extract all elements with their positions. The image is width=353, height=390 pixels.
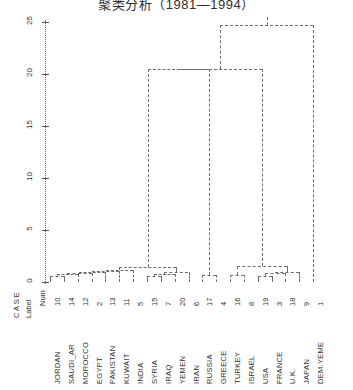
leaf-label-8: IRAQ bbox=[164, 364, 173, 384]
link-h-m18 bbox=[179, 69, 262, 70]
y-tick-label-5: 5 bbox=[25, 218, 34, 240]
leaf-num-10: 6 bbox=[192, 302, 201, 306]
leaf-num-13: 16 bbox=[233, 298, 242, 306]
leaf-label-block: C A S ELabelNum10JORDAN14SAUDI_AR12MOROC… bbox=[0, 284, 353, 390]
leaf-label-19: DEM.YEME bbox=[316, 342, 325, 384]
link-v-m17-left bbox=[148, 69, 149, 268]
leaf-num-9: 20 bbox=[178, 298, 187, 306]
y-tick-10 bbox=[42, 178, 49, 179]
link-v-m12-left bbox=[230, 275, 231, 282]
leaf-num-11: 17 bbox=[205, 298, 214, 306]
link-root-stem bbox=[267, 17, 268, 25]
leaf-label-10: IRAN bbox=[192, 365, 201, 384]
y-tick-label-15: 15 bbox=[25, 114, 34, 136]
link-v-m3-right bbox=[92, 273, 93, 282]
leaf-label-14: ISRAEL bbox=[247, 356, 256, 384]
leaf-num-5: 11 bbox=[122, 298, 131, 306]
link-v-m13-right bbox=[272, 276, 273, 282]
leaf-num-6: 5 bbox=[136, 302, 145, 306]
leaf-label-5: KUWAIT bbox=[122, 353, 131, 384]
leaf-num-19: 1 bbox=[316, 302, 325, 306]
leaf-label-4: PAKISTAN bbox=[108, 346, 117, 384]
leaf-num-4: 13 bbox=[108, 298, 117, 306]
leaf-label-7: SYRIA bbox=[150, 360, 159, 384]
link-v-m10-right bbox=[176, 267, 177, 271]
link-v-m5-right bbox=[119, 271, 120, 282]
leaf-num-3: 2 bbox=[95, 302, 104, 306]
link-h-m4 bbox=[79, 272, 105, 273]
y-tick-label-20: 20 bbox=[25, 62, 34, 84]
leaf-num-15: 19 bbox=[261, 298, 270, 306]
leaf-num-12: 4 bbox=[219, 302, 228, 306]
column-header-num: Num bbox=[38, 290, 47, 306]
link-v-m19-right bbox=[313, 25, 314, 282]
leaf-label-9: YEMEN bbox=[178, 356, 187, 384]
link-v-m16-right bbox=[287, 266, 288, 271]
leaf-label-6: INDIA bbox=[136, 362, 145, 384]
y-tick-20 bbox=[42, 74, 49, 75]
link-h-m6 bbox=[106, 270, 133, 271]
link-h-m5 bbox=[92, 271, 119, 272]
leaf-label-1: SAUDI_AR bbox=[67, 344, 76, 384]
link-h-m2 bbox=[57, 274, 78, 275]
link-h-m16 bbox=[237, 266, 287, 267]
y-axis-line bbox=[45, 20, 46, 284]
link-h-m8 bbox=[154, 274, 175, 275]
link-h-m12 bbox=[230, 275, 244, 276]
link-v-m12-right bbox=[244, 275, 245, 282]
column-header-label: Label bbox=[24, 300, 33, 318]
link-v-m9-right bbox=[189, 272, 190, 282]
leaf-num-14: 8 bbox=[247, 302, 256, 306]
link-h-m13 bbox=[258, 276, 272, 277]
link-v-m17-right bbox=[209, 69, 210, 275]
leaf-num-7: 15 bbox=[150, 298, 159, 306]
plot-area: 0510152025 bbox=[0, 0, 353, 300]
link-h-m3 bbox=[67, 273, 91, 274]
leaf-label-0: JORDAN bbox=[53, 351, 62, 384]
leaf-label-12: GREECE bbox=[219, 351, 228, 384]
y-tick-25 bbox=[42, 22, 49, 23]
leaf-num-18: 9 bbox=[302, 302, 311, 306]
link-v-m1-right bbox=[64, 276, 65, 282]
link-h-m10 bbox=[119, 267, 176, 268]
leaf-num-8: 7 bbox=[164, 302, 173, 306]
leaf-label-11: RUSSIA bbox=[205, 354, 214, 384]
link-v-m8-right bbox=[175, 274, 176, 282]
link-v-m11-left bbox=[202, 275, 203, 282]
link-v-m15-right bbox=[299, 272, 300, 282]
link-h-m11 bbox=[202, 275, 216, 276]
link-h-m9 bbox=[164, 272, 188, 273]
link-v-m2-right bbox=[78, 274, 79, 282]
leaf-label-18: JAPAN bbox=[302, 359, 311, 384]
link-v-m19-left bbox=[220, 25, 221, 69]
leaf-label-3: EGYPT bbox=[95, 357, 104, 384]
leaf-num-17: 18 bbox=[288, 298, 297, 306]
link-h-m15 bbox=[275, 272, 299, 273]
leaf-label-15: USA bbox=[261, 368, 270, 384]
y-tick-label-10: 10 bbox=[25, 166, 34, 188]
leaf-num-2: 12 bbox=[81, 298, 90, 306]
link-v-m16-left bbox=[237, 266, 238, 274]
column-header-case: C A S E bbox=[12, 292, 21, 318]
dendrogram-figure: 聚类分析（1981—1994） 0510152025 C A S ELabelN… bbox=[0, 0, 353, 390]
y-tick-label-25: 25 bbox=[25, 10, 34, 32]
link-h-m7 bbox=[147, 276, 161, 277]
link-v-m18-right bbox=[262, 69, 263, 267]
link-h-m1 bbox=[50, 276, 64, 277]
leaf-label-2: MOROCCO bbox=[81, 342, 90, 384]
link-v-m7-right bbox=[161, 276, 162, 282]
link-v-m4-right bbox=[105, 272, 106, 282]
link-v-m6-right bbox=[133, 270, 134, 282]
link-v-m11-right bbox=[216, 275, 217, 282]
link-h-m14 bbox=[265, 273, 286, 274]
leaf-label-16: FRANCE bbox=[275, 351, 284, 384]
y-tick-15 bbox=[42, 126, 49, 127]
link-v-m14-right bbox=[285, 273, 286, 282]
leaf-num-16: 3 bbox=[275, 302, 284, 306]
leaf-label-13: TURKEY bbox=[233, 352, 242, 384]
link-h-m19 bbox=[220, 25, 313, 26]
y-tick-5 bbox=[42, 230, 49, 231]
leaf-label-17: U.K. bbox=[288, 368, 297, 384]
y-tick-0 bbox=[42, 282, 49, 283]
leaf-num-0: 10 bbox=[53, 298, 62, 306]
